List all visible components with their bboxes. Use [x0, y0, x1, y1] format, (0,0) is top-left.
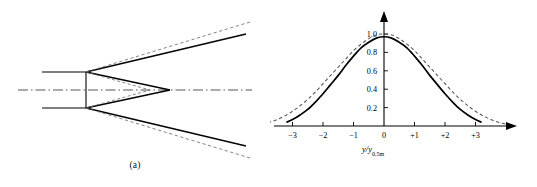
profile-chart-svg: −4−3−2−10+1+2+3 0.20.40.60.81.0 — [270, 0, 537, 160]
x-tick-label: −2 — [319, 131, 328, 140]
potential-core-upper — [86, 72, 170, 90]
x-axis-label: y/y0.5m — [362, 144, 384, 156]
panel-a-caption: (a) — [0, 160, 270, 170]
x-axis-arrowhead — [506, 122, 517, 130]
panel-b-profile-chart: −4−3−2−10+1+2+3 0.20.40.60.81.0 u um / Δ… — [270, 0, 537, 187]
y-tick-label: 0.8 — [367, 48, 377, 57]
x-tick-label: −3 — [288, 131, 297, 140]
y-tick-label: 0.4 — [367, 85, 377, 94]
x-tick-label: +1 — [410, 131, 419, 140]
x-tick-label: −1 — [349, 131, 358, 140]
x-tick-group: −4−3−2−10+1+2+3 — [270, 122, 480, 140]
panel-a-jet-schematic: (a) — [0, 0, 270, 187]
mixing-layer-boundary-lower-theory — [86, 108, 250, 158]
x-tick-label: 0 — [382, 131, 386, 140]
x-tick-label: +2 — [441, 131, 450, 140]
mixing-layer-boundary-upper-theory — [86, 22, 250, 72]
mixing-layer-boundary-upper — [86, 34, 246, 72]
y-tick-label: 0.6 — [367, 67, 377, 76]
y-tick-label: 0.2 — [367, 104, 377, 113]
x-tick-label: +3 — [471, 131, 480, 140]
figure-root: (a) −4−3−2−10+1+2+3 0.20.40.60.81.0 u um… — [0, 0, 537, 187]
potential-core-lower — [86, 90, 170, 108]
x-label-subscript: 0.5m — [372, 151, 384, 157]
mixing-layer-boundary-lower — [86, 108, 246, 146]
jet-schematic-svg — [0, 0, 270, 160]
x-label-main: y/y — [362, 144, 372, 154]
y-axis-arrowhead — [380, 11, 388, 22]
